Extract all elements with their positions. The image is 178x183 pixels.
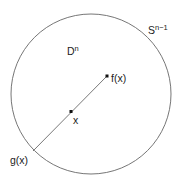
sphere-label-superscript: n−1 <box>155 23 168 32</box>
ray-segment <box>33 76 107 151</box>
disk-label: Dn <box>67 44 79 57</box>
sphere-label-base: S <box>148 24 155 36</box>
retraction-diagram: Sn−1 Dn f(x) x g(x) <box>0 0 178 183</box>
label-gx: g(x) <box>10 154 28 166</box>
label-fx: f(x) <box>111 72 126 84</box>
label-x: x <box>73 114 79 126</box>
sphere-boundary <box>11 14 171 174</box>
point-x <box>70 110 73 113</box>
sphere-label: Sn−1 <box>148 23 168 36</box>
disk-label-superscript: n <box>75 44 79 53</box>
point-fx <box>106 75 109 78</box>
